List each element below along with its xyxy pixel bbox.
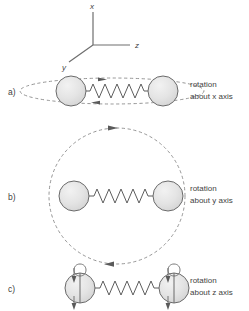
panel-b-label: b) (8, 192, 16, 202)
z-axis-label: z (134, 41, 139, 50)
panel-a-sphere-right (148, 76, 178, 106)
panel-a-caption-line1: rotation (190, 80, 217, 89)
panel-c-spring-coil (100, 281, 154, 295)
panel-c-arrow-right-bottom (166, 303, 171, 310)
panel-b-sphere-right (153, 181, 183, 211)
panel-b-caption-line1: rotation (190, 184, 217, 193)
y-axis-line (69, 45, 93, 62)
panel-a-spring (84, 84, 150, 98)
panel-c: c) rotation about z axis (8, 264, 233, 310)
vibration-rotation-diagram: x y z a) rotation about x axis (0, 0, 249, 311)
panel-a-sphere-left (56, 76, 86, 106)
panel-c-spring (94, 281, 160, 295)
panel-a-caption-line2: about x axis (190, 92, 233, 101)
panel-a-spring-coil (90, 84, 144, 98)
panel-c-caption-line1: rotation (190, 276, 217, 285)
panel-b: b) rotation about y axis (8, 125, 233, 266)
y-axis-label: y (61, 63, 67, 72)
panel-b-arrow-bottom (104, 262, 114, 267)
panel-b-sphere-left (59, 181, 89, 211)
panel-b-spring-coil (94, 189, 148, 203)
panel-a-label: a) (8, 87, 16, 97)
coordinate-axes-group: x y z (61, 2, 139, 72)
diagram-canvas: x y z a) rotation about x axis (0, 0, 249, 311)
panel-b-spring (88, 189, 154, 203)
panel-b-caption-line2: about y axis (190, 196, 233, 205)
panel-c-arrow-left-bottom (72, 303, 77, 310)
panel-b-arrow-top (108, 125, 118, 130)
panel-a: a) rotation about x axis (8, 76, 233, 106)
x-axis-label: x (89, 2, 95, 11)
panel-c-label: c) (8, 284, 15, 294)
panel-c-caption-line2: about z axis (190, 288, 233, 297)
